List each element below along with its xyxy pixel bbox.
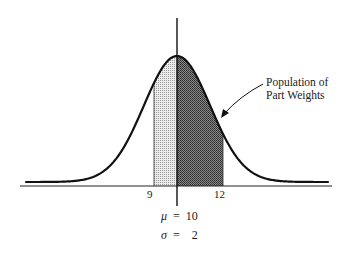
- annotation-arrow-icon: [224, 84, 263, 114]
- sigma-equals: =: [173, 228, 180, 242]
- annotation-label: Population of Part Weights: [266, 76, 328, 102]
- sigma-parameter: σ = 2: [161, 228, 198, 243]
- mu-value: 10: [186, 209, 198, 223]
- mu-symbol: μ: [161, 209, 167, 223]
- sigma-value: 2: [192, 228, 198, 242]
- tick-label-12: 12: [214, 188, 225, 200]
- annotation-line-1: Population of: [266, 76, 328, 89]
- mean-parameter: μ = 10: [161, 209, 198, 224]
- annotation-line-2: Part Weights: [266, 89, 328, 102]
- tick-label-9: 9: [147, 188, 153, 200]
- sigma-symbol: σ: [161, 228, 167, 242]
- mu-equals: =: [173, 209, 180, 223]
